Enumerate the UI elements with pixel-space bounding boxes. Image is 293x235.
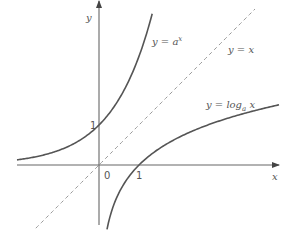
- logarithm-label: y = loga x: [205, 99, 255, 113]
- y-axis-label: y: [85, 12, 92, 23]
- logarithm-label-x: x: [246, 99, 255, 110]
- x-axis-label: x: [272, 171, 278, 182]
- exponential-curve: [17, 14, 152, 160]
- origin-label: 0: [104, 170, 110, 181]
- x-tick-label-1: 1: [136, 170, 142, 181]
- identity-line: [36, 9, 255, 228]
- logarithm-label-log: y = log: [205, 99, 242, 110]
- exponential-label-exponent: x: [178, 35, 182, 43]
- exponential-label: y = ax: [151, 35, 182, 47]
- identity-label: y = x: [227, 44, 254, 55]
- logarithm-curve: [107, 105, 279, 230]
- exponential-label-base: y = a: [151, 36, 178, 47]
- function-graph: y x 0 1 1 y = ax y = x y = loga x: [0, 0, 293, 235]
- y-tick-label-1: 1: [90, 120, 96, 131]
